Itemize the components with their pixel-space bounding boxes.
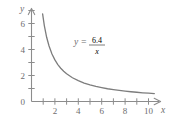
- x-tick-label-4: 4: [76, 106, 81, 116]
- y-tick-label-4: 4: [21, 45, 26, 55]
- x-tick-label-10: 10: [144, 106, 154, 116]
- function-graph-figure: 2 4 6 8 10 0 2 4 6 y x y = 6.4 x: [0, 0, 174, 127]
- x-tick-label-6: 6: [99, 106, 104, 116]
- y-tick-label-6: 6: [21, 19, 26, 29]
- y-tick-label-0: 0: [21, 97, 26, 107]
- y-tick-label-2: 2: [21, 71, 26, 81]
- equation-denominator: x: [94, 47, 99, 56]
- equation-lhs: y: [73, 37, 79, 47]
- equation-annotation: y = 6.4 x: [73, 36, 105, 57]
- x-tick-label-8: 8: [123, 106, 128, 116]
- x-tick-label-2: 2: [53, 106, 58, 116]
- x-axis-label: x: [160, 105, 166, 115]
- y-axis-label: y: [19, 4, 25, 14]
- equation-numerator: 6.4: [92, 36, 102, 45]
- equation-equals: =: [81, 37, 87, 47]
- plot-area: 2 4 6 8 10 0 2 4 6 y x y = 6.4 x: [0, 0, 174, 127]
